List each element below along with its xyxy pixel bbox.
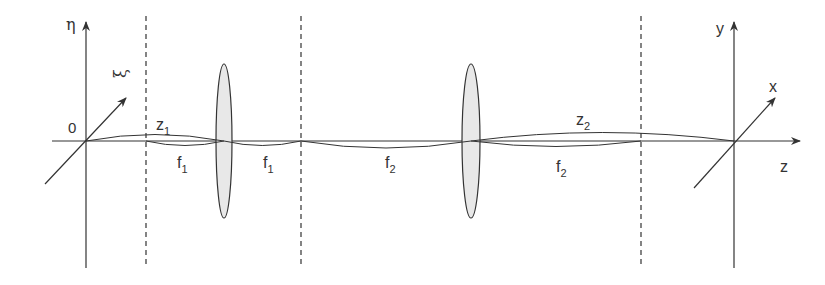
z1-label: z1: [156, 116, 170, 137]
span-f1-a: [146, 141, 224, 146]
f2-label-a: f2: [385, 154, 396, 175]
z2-label: z2: [576, 111, 590, 132]
span-z1: [86, 135, 224, 142]
z-label: z: [780, 158, 788, 175]
xi-label: ξ: [111, 69, 130, 78]
eta-label: η: [66, 15, 76, 34]
span-f2-a: [301, 141, 471, 148]
x-label: x: [769, 78, 777, 95]
f1-label-b: f1: [263, 154, 274, 175]
optical-system-diagram: 0 η ξ y x z z1 f1 f1 f2 z2 f2: [0, 0, 825, 285]
span-z2: [471, 133, 734, 142]
f2-label-b: f2: [556, 158, 567, 179]
origin-label: 0: [68, 119, 76, 136]
span-f1-b: [224, 141, 301, 146]
f1-label-a: f1: [177, 154, 188, 175]
output-plane-axes: [694, 22, 775, 268]
y-label: y: [716, 20, 724, 37]
input-plane-axes: [45, 22, 126, 268]
span-f2-b: [471, 141, 641, 147]
